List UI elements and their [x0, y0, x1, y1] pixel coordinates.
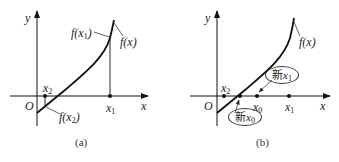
x0-point-b	[255, 94, 259, 98]
f-symbol: f	[299, 35, 302, 49]
x-axis-label-b: x	[320, 100, 325, 112]
origin-label-b: O	[204, 100, 213, 112]
y-axis-label-a: y	[25, 12, 30, 24]
subscript-2: 2	[226, 87, 230, 96]
x1-point-a	[108, 94, 112, 98]
x-axis-label-a: x	[141, 100, 146, 112]
caption-a: (a)	[75, 137, 87, 148]
x1-point-b	[287, 94, 291, 98]
subscript-1: 1	[111, 107, 115, 116]
subscript-1: 1	[288, 74, 292, 83]
subscript-0: 0	[251, 116, 255, 125]
label-x2-b: x2	[221, 82, 230, 96]
leader-fx2-a	[46, 107, 60, 114]
f-symbol: f	[59, 110, 62, 124]
x-symbol: x	[306, 35, 311, 49]
new-x0-point-b	[238, 94, 242, 98]
x-symbol: x	[127, 35, 132, 49]
caption-b: (b)	[256, 137, 269, 148]
subscript-2: 2	[48, 87, 52, 96]
new-x1-callout: 新x1	[265, 66, 299, 84]
subscript-1: 1	[84, 32, 88, 41]
label-x1-a: x1	[106, 102, 115, 116]
f-symbol: f	[71, 26, 74, 40]
leader-fx-b	[294, 22, 300, 36]
label-fx2-a: f(x2)	[59, 111, 80, 125]
leader-fx1-a	[94, 32, 109, 37]
new-x0-callout: 新x0	[228, 108, 262, 126]
y-axis-label-b: y	[205, 12, 210, 24]
label-fx1-a: f(x1)	[71, 27, 92, 41]
label-fx-b: f(x)	[299, 36, 316, 48]
origin-label-a: O	[25, 100, 34, 112]
subscript-2: 2	[72, 116, 76, 125]
label-fx-a: f(x)	[120, 36, 137, 48]
f-symbol: f	[120, 35, 123, 49]
label-x2-a: x2	[43, 82, 52, 96]
new-char: 新	[235, 111, 246, 123]
new-char: 新	[272, 69, 283, 81]
label-x1-b: x1	[285, 101, 294, 115]
subscript-1: 1	[290, 106, 294, 115]
